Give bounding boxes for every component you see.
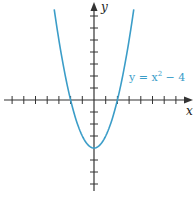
equation-label: y = x2 − 4 (128, 70, 185, 84)
y-axis-label: y (100, 0, 108, 14)
parabola-chart: x y y = x2 − 4 (0, 0, 195, 197)
equation-suffix: − 4 (162, 71, 185, 84)
y-axis (90, 2, 98, 191)
x-axis-label: x (186, 104, 193, 118)
x-axis-arrow-icon (184, 97, 193, 104)
y-axis-arrow-icon (91, 2, 98, 11)
x-axis (4, 96, 193, 104)
equation-prefix: y = x (128, 71, 158, 84)
